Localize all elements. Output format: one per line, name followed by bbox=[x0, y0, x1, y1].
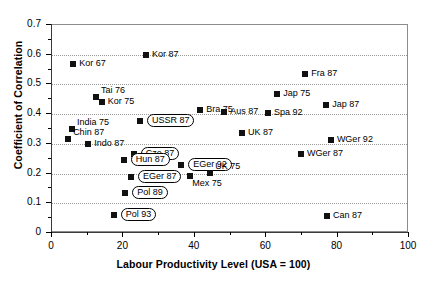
x-tick-mark bbox=[51, 232, 52, 237]
data-point-marker bbox=[298, 151, 304, 157]
y-tick-label: 0.1 bbox=[11, 196, 41, 207]
data-point-marker bbox=[328, 137, 334, 143]
data-point-label: Pol 93 bbox=[121, 208, 157, 221]
x-tick-label: 60 bbox=[247, 240, 283, 251]
y-tick-label: 0 bbox=[11, 226, 41, 237]
data-point-marker bbox=[207, 170, 213, 176]
y-tick-label: 0.4 bbox=[11, 107, 41, 118]
data-point-label: Can 87 bbox=[333, 210, 362, 220]
data-point-marker bbox=[99, 99, 105, 105]
data-point-label: Kor 67 bbox=[79, 58, 106, 68]
data-point-label: Jap 87 bbox=[332, 99, 359, 109]
data-point-label: UK 75 bbox=[215, 161, 240, 171]
data-point-marker bbox=[137, 118, 143, 124]
y-tick-label: 0.2 bbox=[11, 167, 41, 178]
x-tick-mark bbox=[408, 232, 409, 237]
data-point-marker bbox=[143, 52, 149, 58]
x-tick-mark bbox=[194, 232, 195, 237]
data-point-label: Kor 75 bbox=[108, 96, 135, 106]
gridline-y bbox=[52, 203, 407, 204]
data-point-marker bbox=[324, 213, 330, 219]
data-point-marker bbox=[70, 61, 76, 67]
data-point-marker bbox=[302, 71, 308, 77]
x-tick-label: 0 bbox=[33, 240, 69, 251]
data-point-label: Indo 87 bbox=[94, 138, 124, 148]
y-tick-mark-minor bbox=[48, 98, 51, 99]
y-tick-mark bbox=[46, 113, 51, 114]
data-point-marker bbox=[65, 136, 71, 142]
data-point-marker bbox=[85, 141, 91, 147]
y-tick-mark-minor bbox=[48, 217, 51, 218]
x-tick-mark-minor bbox=[301, 232, 302, 235]
data-point-label: EGer 87 bbox=[138, 170, 182, 183]
y-tick-mark bbox=[46, 173, 51, 174]
data-point-marker bbox=[178, 162, 184, 168]
data-point-label: Hun 87 bbox=[131, 153, 170, 166]
y-tick-mark-minor bbox=[48, 128, 51, 129]
data-point-marker bbox=[122, 190, 128, 196]
y-tick-mark bbox=[46, 24, 51, 25]
y-tick-mark-minor bbox=[48, 39, 51, 40]
y-tick-label: 0.5 bbox=[11, 77, 41, 88]
data-point-label: Mex 75 bbox=[192, 178, 222, 188]
y-tick-mark-minor bbox=[48, 158, 51, 159]
gridline-y bbox=[52, 55, 407, 56]
data-point-label: WGer 92 bbox=[337, 134, 373, 144]
data-point-label: Spa 92 bbox=[274, 107, 303, 117]
y-tick-mark bbox=[46, 143, 51, 144]
data-point-label: India 75 bbox=[77, 117, 109, 127]
data-point-marker bbox=[274, 91, 280, 97]
y-tick-label: 0.7 bbox=[11, 18, 41, 29]
data-point-marker bbox=[128, 174, 134, 180]
x-tick-mark bbox=[122, 232, 123, 237]
y-tick-mark-minor bbox=[48, 187, 51, 188]
y-tick-mark bbox=[46, 83, 51, 84]
data-point-label: Jap 75 bbox=[283, 88, 310, 98]
data-point-label: USSR 87 bbox=[147, 114, 195, 127]
x-tick-mark bbox=[337, 232, 338, 237]
x-tick-label: 40 bbox=[176, 240, 212, 251]
data-point-marker bbox=[197, 107, 203, 113]
data-point-label: WGer 87 bbox=[307, 148, 343, 158]
data-point-label: Tai 76 bbox=[101, 85, 125, 95]
data-point-marker bbox=[111, 212, 117, 218]
data-point-marker bbox=[323, 102, 329, 108]
data-point-label: Kor 87 bbox=[152, 49, 179, 59]
x-tick-mark-minor bbox=[372, 232, 373, 235]
data-point-label: Fra 87 bbox=[311, 68, 337, 78]
y-axis-line bbox=[51, 24, 52, 232]
y-tick-label: 0.3 bbox=[11, 137, 41, 148]
x-axis-title: Labour Productivity Level (USA = 100) bbox=[0, 258, 427, 270]
data-point-marker bbox=[221, 109, 227, 115]
data-point-marker bbox=[239, 130, 245, 136]
y-tick-mark bbox=[46, 54, 51, 55]
x-tick-mark-minor bbox=[230, 232, 231, 235]
x-tick-mark-minor bbox=[87, 232, 88, 235]
y-tick-mark bbox=[46, 202, 51, 203]
x-tick-label: 100 bbox=[390, 240, 426, 251]
data-point-label: Bra 75 bbox=[206, 104, 233, 114]
x-tick-mark bbox=[265, 232, 266, 237]
x-tick-label: 20 bbox=[104, 240, 140, 251]
data-point-label: Pol 89 bbox=[132, 186, 168, 199]
data-point-marker bbox=[121, 157, 127, 163]
plot-area bbox=[51, 24, 408, 232]
x-tick-mark-minor bbox=[158, 232, 159, 235]
gridline-y bbox=[52, 174, 407, 175]
x-tick-label: 80 bbox=[319, 240, 355, 251]
data-point-label: Chin 87 bbox=[73, 127, 104, 137]
y-tick-label: 0.6 bbox=[11, 48, 41, 59]
data-point-label: Aus 87 bbox=[230, 106, 258, 116]
y-tick-mark-minor bbox=[48, 69, 51, 70]
data-point-marker bbox=[265, 110, 271, 116]
scatter-chart: Coefficient of Correlation Labour Produc… bbox=[0, 0, 427, 282]
data-point-label: UK 87 bbox=[248, 127, 273, 137]
